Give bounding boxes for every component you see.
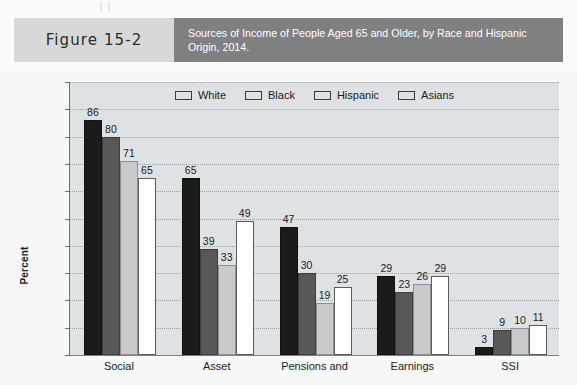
- bar[interactable]: 71: [120, 82, 138, 355]
- figure-title-block: Sources of Income of People Aged 65 and …: [174, 18, 563, 62]
- bar-value-label: 29: [434, 262, 446, 274]
- bar-rect: [395, 292, 413, 355]
- bar-rect: [529, 325, 547, 355]
- legend-swatch-icon-white: [175, 91, 192, 100]
- bar-rect: [377, 276, 395, 355]
- bar[interactable]: 23: [395, 82, 413, 355]
- bar-value-label: 3: [481, 333, 487, 345]
- bar-rect: [102, 137, 120, 355]
- bar-value-label: 29: [380, 262, 392, 274]
- bar[interactable]: 9: [493, 82, 511, 355]
- bar-value-label: 47: [283, 213, 295, 225]
- bars-layer: 86807165653933494730192529232629391011: [70, 82, 559, 355]
- bar-value-label: 23: [398, 278, 410, 290]
- bar[interactable]: 25: [334, 82, 352, 355]
- legend-swatch-icon-black: [245, 91, 262, 100]
- bar-value-label: 9: [499, 316, 505, 328]
- bar[interactable]: 29: [431, 82, 449, 355]
- chart-panel: Percent 0102030405060708090100 WhiteBlac…: [0, 72, 577, 385]
- bar[interactable]: 30: [298, 82, 316, 355]
- figure-header: Figure 15-2 Sources of Income of People …: [14, 18, 563, 62]
- bar-group: 47301925: [280, 82, 352, 355]
- legend-item-hispanic[interactable]: Hispanic: [314, 89, 379, 101]
- legend-label: Black: [268, 89, 295, 101]
- bar-rect: [236, 221, 254, 355]
- bar-rect: [138, 178, 156, 355]
- legend-label: White: [198, 89, 226, 101]
- legend-item-white[interactable]: White: [175, 89, 226, 101]
- figure-number-label: Figure 15-2: [46, 31, 143, 49]
- bar-rect: [200, 249, 218, 355]
- legend-swatch-icon-asians: [398, 91, 415, 100]
- x-axis-label: Pensions and: [281, 360, 348, 372]
- bar-rect: [413, 284, 431, 355]
- bar-value-label: 19: [319, 289, 331, 301]
- legend-label: Asians: [421, 89, 454, 101]
- bar[interactable]: 11: [529, 82, 547, 355]
- bar-value-label: 25: [337, 273, 349, 285]
- bar-rect: [431, 276, 449, 355]
- bar-rect: [316, 303, 334, 355]
- bar-rect: [334, 287, 352, 355]
- legend-item-black[interactable]: Black: [245, 89, 295, 101]
- bar-value-label: 11: [533, 311, 544, 323]
- x-axis-label: Asset: [203, 360, 231, 372]
- bar-rect: [493, 330, 511, 355]
- bar-rect: [182, 178, 200, 355]
- bar[interactable]: 26: [413, 82, 431, 355]
- bar-value-label: 86: [87, 106, 99, 118]
- bar-rect: [84, 120, 102, 355]
- bar-rect: [475, 347, 493, 355]
- bar-group: 65393349: [182, 82, 254, 355]
- bar[interactable]: 86: [84, 82, 102, 355]
- x-axis-label: Earnings: [391, 360, 434, 372]
- bar[interactable]: 65: [182, 82, 200, 355]
- bar-value-label: 65: [185, 164, 197, 176]
- bar[interactable]: 80: [102, 82, 120, 355]
- bar-value-label: 39: [203, 235, 215, 247]
- bar-rect: [120, 161, 138, 355]
- bar-value-label: 33: [221, 251, 233, 263]
- bar-rect: [280, 227, 298, 355]
- bar-value-label: 30: [301, 259, 313, 271]
- bar-group: 29232629: [377, 82, 449, 355]
- bar[interactable]: 19: [316, 82, 334, 355]
- bar-value-label: 10: [514, 314, 526, 326]
- bar-value-label: 65: [141, 164, 153, 176]
- bar[interactable]: 65: [138, 82, 156, 355]
- bar[interactable]: 29: [377, 82, 395, 355]
- bar-rect: [218, 265, 236, 355]
- bar[interactable]: 49: [236, 82, 254, 355]
- bar-value-label: 71: [123, 147, 135, 159]
- bar[interactable]: 33: [218, 82, 236, 355]
- gridline-0: [70, 355, 559, 356]
- scan-artifact: [96, 2, 236, 11]
- x-axis-label: Social: [104, 360, 134, 372]
- x-axis-label: SSI: [501, 360, 519, 372]
- legend-item-asians[interactable]: Asians: [398, 89, 454, 101]
- bar[interactable]: 3: [475, 82, 493, 355]
- bar-rect: [511, 328, 529, 355]
- bar-rect: [298, 273, 316, 355]
- bar[interactable]: 47: [280, 82, 298, 355]
- bar-value-label: 80: [105, 123, 117, 135]
- figure-number-block: Figure 15-2: [14, 18, 174, 62]
- x-axis-labels: SocialAssetPensions andEarningsSSI: [69, 360, 558, 382]
- bar-group: 391011: [475, 82, 547, 355]
- bar-value-label: 49: [239, 207, 251, 219]
- figure-title-text: Sources of Income of People Aged 65 and …: [188, 26, 553, 54]
- bar[interactable]: 10: [511, 82, 529, 355]
- plot-area: 0102030405060708090100 WhiteBlackHispani…: [69, 82, 559, 356]
- legend-swatch-icon-hispanic: [314, 91, 331, 100]
- y-axis-title: Percent: [19, 236, 30, 296]
- legend-label: Hispanic: [337, 89, 379, 101]
- chart-legend: WhiteBlackHispanicAsians: [70, 82, 559, 108]
- bar-value-label: 26: [416, 270, 428, 282]
- bar-group: 86807165: [84, 82, 156, 355]
- bar[interactable]: 39: [200, 82, 218, 355]
